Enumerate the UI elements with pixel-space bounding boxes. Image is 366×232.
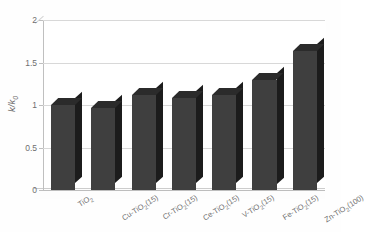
- bar-front-face: [91, 108, 115, 190]
- y-axis-tick-label: 0.5: [25, 143, 37, 153]
- bar-side-face: [156, 82, 163, 183]
- bar-slot: [212, 20, 236, 190]
- bar-side-face: [317, 38, 324, 183]
- plot-area: 21.510.50: [43, 20, 325, 190]
- bar-side-face: [277, 66, 284, 183]
- x-axis-tick-label: Zn-TiO2(100): [322, 193, 365, 225]
- y-axis-tick-label: 0: [32, 185, 37, 195]
- bar[interactable]: [91, 108, 115, 190]
- bar-slot: [293, 20, 317, 190]
- gridline: [43, 190, 325, 191]
- bar[interactable]: [132, 95, 156, 190]
- x-axis-tick-labels: TiO2Cu-TiO2(15)Cr-TiO2(15)Ce-TiO2(15)V-T…: [43, 193, 325, 232]
- y-axis-tick-label: 1: [32, 100, 37, 110]
- bar[interactable]: [252, 80, 276, 191]
- y-axis-tick-mark: [39, 190, 43, 191]
- x-axis-tick-label: Ce-TiO2(15): [201, 193, 241, 224]
- bar[interactable]: [293, 51, 317, 190]
- bar-front-face: [212, 95, 236, 190]
- bar-side-face: [236, 82, 243, 183]
- bar-side-face: [115, 94, 122, 183]
- bar-front-face: [293, 51, 317, 190]
- y-axis-title-subscript: 0: [12, 96, 19, 100]
- bars-group: [43, 20, 325, 190]
- bar[interactable]: [212, 95, 236, 190]
- y-axis-title-main: k/k: [6, 100, 17, 112]
- bar-slot: [252, 20, 276, 190]
- bar-slot: [132, 20, 156, 190]
- bar-side-face: [196, 85, 203, 183]
- y-axis-title: k/k0: [6, 96, 19, 112]
- y-axis-tick-label: 1.5: [25, 58, 37, 68]
- bar[interactable]: [172, 98, 196, 190]
- x-axis-tick-label: V-TiO2(15): [241, 193, 277, 221]
- bar-side-face: [75, 92, 82, 183]
- bar-slot: [91, 20, 115, 190]
- x-axis-tick-label: Fe-TiO2(15): [282, 193, 322, 223]
- x-axis-tick-label: Cu-TiO2(15): [121, 193, 161, 224]
- y-axis-tick-label: 2: [32, 15, 37, 25]
- bar-front-face: [51, 105, 75, 190]
- bar-slot: [51, 20, 75, 190]
- bar-front-face: [172, 98, 196, 190]
- bar[interactable]: [51, 105, 75, 190]
- bar-front-face: [252, 80, 276, 191]
- bar-front-face: [132, 95, 156, 190]
- x-axis-tick-label: TiO2: [76, 193, 94, 210]
- x-axis-tick-label: Cr-TiO2(15): [161, 193, 200, 223]
- bar-slot: [172, 20, 196, 190]
